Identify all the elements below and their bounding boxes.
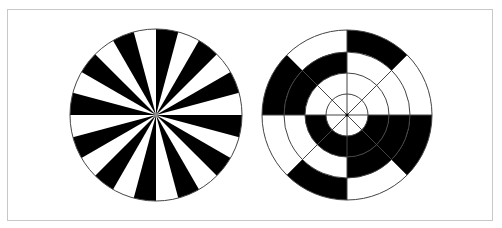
radial-sector-pattern [70, 29, 242, 201]
concentric-ring-pattern [262, 30, 432, 200]
center-dot [346, 114, 349, 117]
figure-canvas [0, 0, 502, 228]
